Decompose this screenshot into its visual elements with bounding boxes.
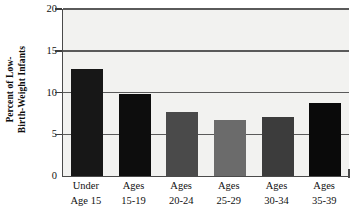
bar-2 <box>166 112 198 176</box>
x-tick-label-1-line-1: 15-19 <box>110 194 158 209</box>
x-tick-label-2: Ages20-24 <box>157 179 205 208</box>
y-tick-mark-10 <box>55 92 62 94</box>
x-tick-label-5-line-0: Ages <box>300 179 348 194</box>
x-tick-label-5: Ages35-39 <box>300 179 348 208</box>
x-tick-label-2-line-0: Ages <box>157 179 205 194</box>
x-tick-label-3-line-1: 25-29 <box>205 194 253 209</box>
gridline-5 <box>63 134 349 136</box>
y-tick-label-20: 20 <box>35 4 57 14</box>
bar-5 <box>309 103 341 176</box>
y-axis-title-line-1: Percent of Low- <box>6 45 18 132</box>
gridline-15 <box>63 50 349 52</box>
y-tick-mark-15 <box>55 50 62 52</box>
y-tick-mark-20 <box>55 8 62 10</box>
bar-0 <box>71 69 103 176</box>
gridline-20 <box>63 8 349 10</box>
y-tick-mark-5 <box>55 134 62 136</box>
x-tick-label-4-line-1: 30-34 <box>253 194 301 209</box>
y-tick-label-10: 10 <box>35 88 57 98</box>
x-tick-label-1-line-0: Ages <box>110 179 158 194</box>
x-tick-label-3: Ages25-29 <box>205 179 253 208</box>
x-tick-label-4: Ages30-34 <box>253 179 301 208</box>
axis-right-cap <box>348 169 350 178</box>
plot-inner <box>63 9 349 176</box>
x-tick-label-4-line-0: Ages <box>253 179 301 194</box>
bar-1 <box>119 94 151 176</box>
x-tick-label-5-line-1: 35-39 <box>300 194 348 209</box>
bar-4 <box>262 117 294 176</box>
y-tick-label-0: 0 <box>35 171 57 181</box>
y-axis-title-line-2: Birth-Weight Infants <box>17 45 29 132</box>
y-tick-label-5: 5 <box>35 129 57 139</box>
x-tick-label-1: Ages15-19 <box>110 179 158 208</box>
x-tick-label-0-line-1: Age 15 <box>62 194 110 209</box>
y-axis-title: Percent of Low- Birth-Weight Infants <box>0 0 34 178</box>
plot-area <box>62 9 349 177</box>
x-tick-label-0-line-0: Under <box>62 179 110 194</box>
y-tick-label-15: 15 <box>35 46 57 56</box>
x-tick-label-3-line-0: Ages <box>205 179 253 194</box>
gridline-10 <box>63 92 349 94</box>
x-tick-label-0: UnderAge 15 <box>62 179 110 208</box>
x-axis-tick-labels: UnderAge 15Ages15-19Ages20-24Ages25-29Ag… <box>62 179 348 210</box>
bar-chart: Percent of Low- Birth-Weight Infants 20 … <box>0 0 362 210</box>
bar-3 <box>214 120 246 176</box>
x-tick-label-2-line-1: 20-24 <box>157 194 205 209</box>
y-axis-tick-labels: 20 15 10 5 0 <box>33 9 57 176</box>
